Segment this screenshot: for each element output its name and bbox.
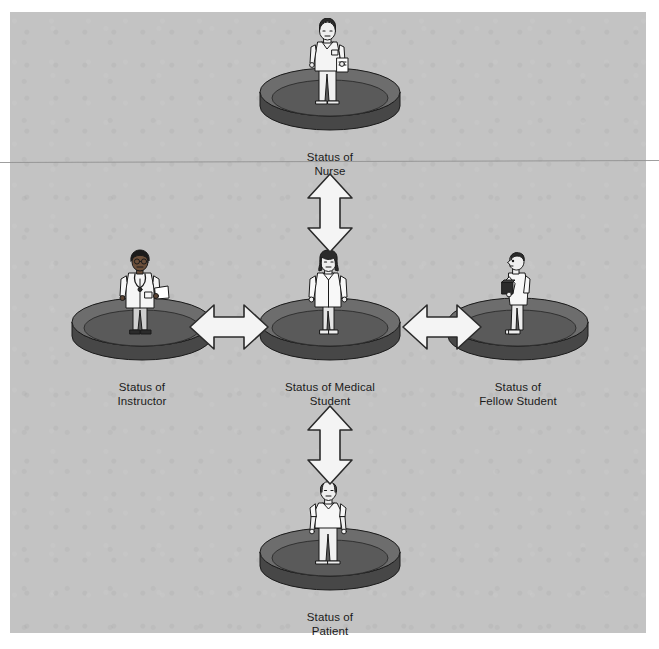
arrow-nurse-medical-student: [302, 172, 358, 254]
node-label-patient: Status of Patient: [215, 611, 445, 638]
node-patient[interactable]: Status of Patient: [215, 478, 445, 638]
node-nurse[interactable]: Status of Nurse: [215, 18, 445, 178]
patient-stage: [215, 478, 445, 610]
nurse-figure: [215, 18, 445, 150]
arrow-medical-student-fellow-student: [401, 299, 483, 355]
nurse-stage: [215, 18, 445, 150]
arrow-medical-student-patient: [302, 404, 358, 486]
node-label-fellow-student: Status of Fellow Student: [403, 381, 633, 408]
patient-figure: [215, 478, 445, 610]
arrow-instructor-medical-student: [188, 299, 270, 355]
status-diagram: Status of Nurse: [0, 0, 659, 649]
